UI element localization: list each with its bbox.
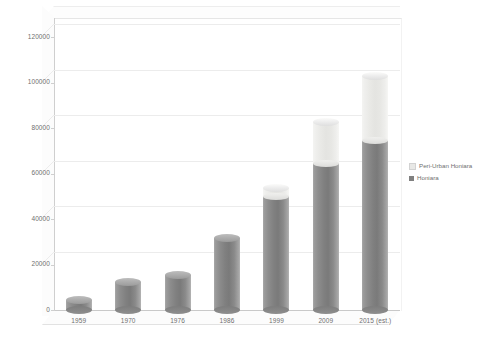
bar-cap-ellipse: [214, 234, 240, 242]
bar-series-layer: [0, 0, 410, 330]
chart-container: 020000400006000080000100000120000 195919…: [0, 0, 486, 346]
bar-segment-peri-urban-honiara[interactable]: [313, 122, 339, 163]
legend-swatch-honiara: [409, 176, 414, 181]
bar-segment-honiara[interactable]: [313, 163, 339, 310]
bar-cap-ellipse: [165, 271, 191, 279]
bar-segment-seam-ellipse: [263, 193, 289, 200]
bar-base-ellipse: [165, 306, 191, 314]
bar-cap-ellipse: [66, 296, 92, 304]
legend-label-honiara: Honiara: [417, 175, 439, 181]
bar-segment-honiara[interactable]: [263, 196, 289, 310]
bar-cap-ellipse: [115, 278, 141, 286]
bar-segment-honiara[interactable]: [362, 141, 388, 310]
legend-label-peri-urban-honiara: Peri-Urban Honiara: [419, 163, 472, 169]
legend-item-honiara[interactable]: Honiara: [409, 175, 485, 181]
x-axis-tick-label: 2015 (est.): [345, 318, 405, 325]
bar-column[interactable]: [214, 238, 240, 310]
bar-base-ellipse: [362, 306, 388, 314]
bar-segment-honiara[interactable]: [165, 275, 191, 310]
bar-base-ellipse: [214, 306, 240, 314]
bar-segment-peri-urban-honiara[interactable]: [362, 76, 388, 141]
bar-column[interactable]: [263, 188, 289, 310]
chart-legend: Peri-Urban Honiara Honiara: [409, 163, 485, 186]
bar-segment-honiara[interactable]: [214, 238, 240, 310]
bar-base-ellipse: [66, 306, 92, 314]
bar-cap-ellipse: [263, 184, 289, 192]
bar-base-ellipse: [263, 306, 289, 314]
bar-segment-seam-ellipse: [362, 137, 388, 144]
bar-base-ellipse: [115, 306, 141, 314]
bar-segment-honiara[interactable]: [66, 300, 92, 310]
bar-column[interactable]: [66, 300, 92, 310]
bar-segment-seam-ellipse: [313, 160, 339, 167]
bar-column[interactable]: [313, 122, 339, 310]
bar-cap-ellipse: [362, 72, 388, 80]
legend-swatch-peri-urban-honiara: [409, 163, 416, 170]
bar-column[interactable]: [115, 282, 141, 310]
bar-segment-honiara[interactable]: [115, 282, 141, 310]
bar-base-ellipse: [313, 306, 339, 314]
legend-item-peri-urban-honiara[interactable]: Peri-Urban Honiara: [409, 163, 485, 170]
bar-column[interactable]: [165, 275, 191, 310]
bar-column[interactable]: [362, 76, 388, 310]
x-axis-labels: 1959197019761986199920092015 (est.): [0, 318, 410, 334]
bar-cap-ellipse: [313, 118, 339, 126]
plot-area-3d: 020000400006000080000100000120000 195919…: [0, 0, 410, 330]
